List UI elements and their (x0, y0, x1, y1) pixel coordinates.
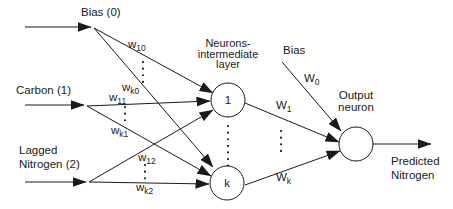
hidden-layer-title: Neurons- intermediate layer (186, 38, 270, 70)
output-neuron-title-line2: neuron (330, 102, 382, 114)
output-neuron-title: Output neuron (330, 90, 382, 113)
neural-network-diagram: Bias (0) Carbon (1) Lagged Nitrogen (2) … (0, 0, 453, 209)
output-neuron-circle (339, 127, 373, 161)
prediction-label-line2: Nitrogen (391, 169, 440, 183)
weight-label-w10: w10 (128, 38, 146, 50)
weight-wk1-sub: k1 (119, 129, 128, 139)
weight-w12-sub: 12 (146, 156, 155, 166)
weight-W0-base: W (304, 72, 315, 84)
prediction-label: Predicted Nitrogen (391, 155, 440, 182)
edge-neuron1-to-output (245, 103, 339, 142)
input-label-nitrogen: Lagged Nitrogen (2) (19, 144, 80, 171)
output-neuron-title-line1: Output (330, 90, 382, 102)
hidden-layer-title-line3: layer (186, 59, 270, 70)
input-label-bias: Bias (0) (81, 6, 121, 20)
weight-W0-sub: 0 (315, 77, 320, 87)
weight-label-W0: W0 (304, 72, 320, 84)
hidden-neuron-k-label: k (210, 174, 244, 192)
input-label-nitrogen-line1: Lagged (19, 144, 80, 158)
output-bias-label: Bias (283, 44, 305, 58)
weight-label-wk1: wk1 (111, 124, 128, 136)
weight-label-wk2: wk2 (136, 181, 153, 193)
edge-carbon-to-neuron1 (87, 101, 210, 106)
prediction-label-line1: Predicted (391, 155, 440, 169)
weight-Wk-base: W (276, 171, 287, 183)
weight-w10-sub: 10 (136, 43, 145, 53)
weight-W1-base: W (276, 99, 287, 111)
input-label-nitrogen-line2: Nitrogen (2) (19, 158, 80, 172)
edge-neuronk-to-output (245, 151, 340, 185)
weight-label-w12: w12 (138, 151, 156, 163)
weight-Wk-sub: k (287, 176, 291, 186)
weight-wk2-sub: k2 (144, 186, 153, 196)
input-label-carbon: Carbon (1) (16, 84, 71, 98)
weight-wk0-sub: k0 (130, 86, 139, 96)
hidden-neuron-1-label: 1 (211, 91, 245, 109)
hidden-layer-title-line1: Neurons- (186, 38, 270, 49)
weight-label-W1: W1 (276, 99, 292, 111)
weight-label-w11: w11 (109, 91, 126, 103)
weight-w11-sub: 11 (117, 96, 126, 106)
weight-W1-sub: 1 (287, 104, 292, 114)
weight-label-Wk: Wk (276, 171, 291, 183)
